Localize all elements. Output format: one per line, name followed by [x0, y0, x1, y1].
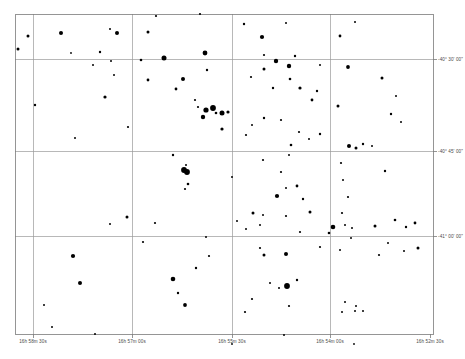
star-marker	[262, 159, 264, 161]
ra-axis-label: 16h 58m 30s	[19, 339, 47, 344]
star-marker	[362, 310, 364, 312]
star-marker	[278, 287, 280, 289]
star-marker	[245, 134, 247, 136]
star-marker	[294, 55, 296, 57]
ra-axis-label: 16h 54m 00s	[316, 339, 344, 344]
star-marker	[245, 228, 247, 230]
star-marker	[34, 104, 36, 106]
star-marker	[296, 185, 299, 188]
star-marker	[347, 144, 351, 148]
star-marker	[147, 31, 150, 34]
star-marker	[362, 143, 364, 145]
dec-axis-label: -40° 45' 00"	[438, 149, 463, 154]
star-marker	[43, 304, 45, 306]
star-marker	[71, 254, 75, 258]
star-marker	[183, 303, 187, 307]
star-marker	[177, 292, 179, 294]
star-marker	[181, 77, 185, 81]
star-marker	[184, 169, 190, 175]
star-marker	[298, 86, 301, 89]
star-marker	[187, 183, 190, 186]
star-marker	[272, 87, 274, 89]
star-marker	[70, 52, 72, 54]
star-marker	[251, 298, 253, 300]
star-marker	[154, 222, 156, 224]
star-marker	[127, 126, 129, 128]
plot-border	[15, 14, 433, 334]
star-marker	[199, 13, 201, 15]
star-marker	[353, 343, 355, 345]
star-marker	[197, 106, 199, 108]
star-marker	[259, 247, 261, 249]
star-marker	[414, 222, 417, 225]
coordinate-grid	[15, 14, 433, 334]
star-marker	[252, 212, 255, 215]
star-marker	[350, 237, 352, 239]
star-marker	[243, 23, 245, 25]
star-marker	[390, 113, 392, 115]
star-marker	[341, 212, 343, 214]
star-marker	[381, 77, 384, 80]
star-marker	[283, 334, 285, 336]
star-marker	[92, 64, 94, 66]
star-marker	[284, 283, 290, 289]
star-marker	[203, 51, 208, 56]
star-marker	[344, 224, 346, 226]
star-marker	[99, 51, 101, 53]
star-marker	[394, 219, 397, 222]
star-marker	[260, 35, 264, 39]
star-marker	[287, 64, 291, 68]
star-marker	[395, 95, 397, 97]
star-marker	[250, 76, 252, 78]
chart-frame	[15, 14, 437, 338]
star-marker	[339, 35, 342, 38]
star-marker	[371, 145, 373, 147]
dec-axis-label: -40° 30' 00"	[438, 57, 463, 62]
star-points	[17, 13, 420, 345]
star-marker	[208, 255, 210, 257]
star-marker	[328, 232, 331, 235]
star-marker	[110, 60, 112, 62]
ra-axis-label: 16h 57m 00s	[118, 339, 146, 344]
star-marker	[374, 225, 377, 228]
star-marker	[319, 133, 321, 135]
star-marker	[185, 164, 187, 166]
dec-axis-label: -41° 00' 00"	[438, 234, 463, 239]
star-marker	[311, 99, 314, 102]
star-marker	[316, 90, 318, 92]
star-marker	[288, 305, 290, 307]
ra-axis-label: 16h 52m 30s	[416, 339, 444, 344]
star-marker	[354, 310, 356, 312]
star-marker	[400, 121, 402, 123]
star-marker	[220, 111, 225, 116]
star-marker	[340, 162, 342, 164]
star-marker	[339, 249, 341, 251]
star-marker	[259, 224, 261, 226]
star-marker	[51, 326, 53, 328]
star-marker	[263, 117, 265, 119]
star-marker	[194, 99, 196, 101]
star-marker	[337, 105, 340, 108]
star-marker	[201, 115, 205, 119]
star-marker	[341, 311, 343, 313]
star-marker	[94, 333, 96, 335]
star-marker	[274, 59, 278, 63]
star-marker	[126, 216, 129, 219]
star-marker	[263, 68, 266, 71]
star-marker	[347, 196, 349, 198]
star-marker	[285, 215, 287, 217]
star-marker	[417, 247, 420, 250]
star-marker	[309, 211, 312, 214]
star-marker	[355, 147, 358, 150]
star-marker	[236, 220, 238, 222]
star-marker	[220, 127, 223, 130]
star-marker	[263, 54, 265, 56]
star-marker	[205, 236, 207, 238]
star-marker	[302, 198, 304, 200]
star-marker	[203, 107, 208, 112]
star-marker	[342, 179, 344, 181]
star-marker	[175, 88, 178, 91]
star-marker	[296, 279, 298, 281]
star-marker	[147, 79, 150, 82]
star-marker	[269, 282, 271, 284]
